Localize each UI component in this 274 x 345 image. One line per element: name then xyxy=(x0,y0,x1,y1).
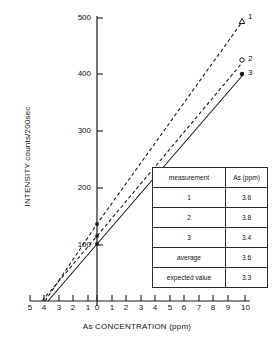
table-header-measurement: measurement xyxy=(153,168,226,188)
series-3-marker xyxy=(240,72,244,76)
table-cell-value: 3.3 xyxy=(226,268,268,288)
x-tick-label-7: 7 xyxy=(193,303,205,312)
x-tick-marks xyxy=(30,295,245,301)
x-tick-label-10: 10 xyxy=(238,303,253,312)
table-cell-value: 3.8 xyxy=(226,208,268,228)
table-row: 1 3.6 xyxy=(153,188,268,208)
x-axis-title: As CONCENTRATION (ppm) xyxy=(0,322,274,331)
x-tick-label-8: 8 xyxy=(207,303,219,312)
y-axis-title: INTENSITY counts/200sec xyxy=(23,77,32,237)
chart-figure: 500 400 300 200 100 5 4 3 2 1 0 1 2 3 4 … xyxy=(0,0,274,345)
series-3-origin-marker xyxy=(95,242,99,246)
series-2-marker xyxy=(240,58,244,62)
y-tick-label-200: 200 xyxy=(58,183,91,192)
x-tick-label-m2: 2 xyxy=(67,303,79,312)
x-tick-label-5: 5 xyxy=(164,303,176,312)
series-1-label: 1 xyxy=(248,12,252,21)
table-header-row: measurement As (ppm) xyxy=(153,168,268,188)
y-tick-marks xyxy=(97,18,103,245)
y-tick-label-400: 400 xyxy=(58,69,91,78)
series-3-label: 3 xyxy=(248,68,252,77)
x-tick-label-4: 4 xyxy=(149,303,161,312)
x-tick-label-1: 1 xyxy=(106,303,118,312)
x-tick-label-9: 9 xyxy=(222,303,234,312)
table-cell-measurement: 1 xyxy=(153,188,226,208)
y-tick-label-500: 500 xyxy=(58,13,91,22)
x-tick-label-6: 6 xyxy=(178,303,190,312)
table-cell-value: 3.6 xyxy=(226,188,268,208)
results-table: measurement As (ppm) 1 3.6 2 3.8 3 3.4 a… xyxy=(152,167,268,288)
y-tick-label-300: 300 xyxy=(58,126,91,135)
x-tick-label-2: 2 xyxy=(120,303,132,312)
y-tick-label-100: 100 xyxy=(58,240,91,249)
table-row: 3 3.4 xyxy=(153,228,268,248)
table-cell-measurement: average xyxy=(153,248,226,268)
series-2-origin-marker xyxy=(95,234,99,238)
table-cell-value: 3.4 xyxy=(226,228,268,248)
series-1-marker xyxy=(239,19,245,24)
table-cell-measurement: 2 xyxy=(153,208,226,228)
table-row: average 3.6 xyxy=(153,248,268,268)
x-tick-label-m4: 4 xyxy=(38,303,50,312)
table-cell-value: 3.6 xyxy=(226,248,268,268)
table-row: expected value 3.3 xyxy=(153,268,268,288)
x-tick-label-m5: 5 xyxy=(24,303,36,312)
table-header-value: As (ppm) xyxy=(226,168,268,188)
x-tick-label-0: 0 xyxy=(91,303,103,312)
table-cell-measurement: 3 xyxy=(153,228,226,248)
series-2-label: 2 xyxy=(248,54,252,63)
x-tick-label-3: 3 xyxy=(135,303,147,312)
series-1-origin-marker xyxy=(95,222,99,226)
table-row: 2 3.8 xyxy=(153,208,268,228)
x-tick-label-m3: 3 xyxy=(53,303,65,312)
table-cell-measurement: expected value xyxy=(153,268,226,288)
